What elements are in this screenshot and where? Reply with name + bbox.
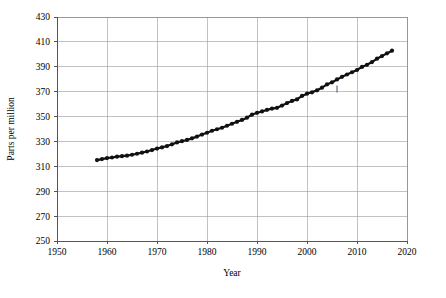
data-point xyxy=(325,82,329,86)
data-point xyxy=(385,51,389,55)
data-point xyxy=(215,127,219,131)
data-point xyxy=(185,138,189,142)
data-point xyxy=(125,154,129,158)
data-point xyxy=(195,134,199,138)
x-tick-label-1980: 1980 xyxy=(198,247,217,257)
data-point xyxy=(280,104,284,108)
data-point xyxy=(250,113,254,117)
data-point xyxy=(285,101,289,105)
data-point xyxy=(260,109,264,113)
data-point xyxy=(390,49,394,53)
x-tick-label-1950: 1950 xyxy=(48,247,67,257)
data-point xyxy=(290,99,294,103)
data-point xyxy=(275,106,279,110)
data-point xyxy=(135,152,139,156)
x-axis-title: Year xyxy=(223,268,241,278)
chart-background xyxy=(0,0,446,298)
data-point xyxy=(180,139,184,143)
chart-container: 250270290310330350370390410430 195019601… xyxy=(0,0,446,298)
data-point xyxy=(150,148,154,152)
data-point xyxy=(380,54,384,58)
data-point xyxy=(310,90,314,94)
y-tick-label-350: 350 xyxy=(36,112,51,122)
data-point xyxy=(255,111,259,115)
y-tick-label-250: 250 xyxy=(36,236,51,246)
x-tick-label-2000: 2000 xyxy=(298,247,317,257)
data-point xyxy=(300,94,304,98)
x-tick-label-2010: 2010 xyxy=(348,247,367,257)
data-point xyxy=(345,72,349,76)
data-point xyxy=(130,153,134,157)
data-point xyxy=(170,142,174,146)
data-point xyxy=(315,88,319,92)
co2-concentration-scatter-chart: 250270290310330350370390410430 195019601… xyxy=(0,0,446,298)
data-point xyxy=(375,57,379,61)
data-point xyxy=(230,122,234,126)
data-point xyxy=(100,157,104,161)
x-tick-label-1970: 1970 xyxy=(148,247,167,257)
y-tick-label-310: 310 xyxy=(36,162,51,172)
data-point xyxy=(360,65,364,69)
data-point xyxy=(190,136,194,140)
y-axis-title: Parts per million xyxy=(6,97,16,161)
data-point xyxy=(295,97,299,101)
data-point xyxy=(235,120,239,124)
y-tick-label-330: 330 xyxy=(36,137,51,147)
data-point xyxy=(175,140,179,144)
data-point xyxy=(265,108,269,112)
data-point xyxy=(165,144,169,148)
data-point xyxy=(155,146,159,150)
data-point xyxy=(110,155,114,159)
data-point xyxy=(140,151,144,155)
data-point xyxy=(200,133,204,137)
data-point xyxy=(115,155,119,159)
x-tick-label-2020: 2020 xyxy=(398,247,417,257)
data-point xyxy=(210,129,214,133)
y-tick-label-410: 410 xyxy=(36,37,51,47)
data-point xyxy=(355,68,359,72)
y-tick-label-430: 430 xyxy=(36,12,51,22)
x-tick-label-1990: 1990 xyxy=(248,247,267,257)
data-point xyxy=(330,80,334,84)
data-point xyxy=(365,63,369,67)
data-point xyxy=(305,92,309,96)
data-point xyxy=(120,154,124,158)
data-point xyxy=(370,60,374,64)
y-tick-label-370: 370 xyxy=(36,87,51,97)
y-tick-label-390: 390 xyxy=(36,62,51,72)
data-point xyxy=(160,145,164,149)
data-point xyxy=(245,116,249,120)
y-tick-label-290: 290 xyxy=(36,187,51,197)
data-point xyxy=(320,86,324,90)
data-point xyxy=(225,124,229,128)
data-point xyxy=(240,118,244,122)
data-point xyxy=(105,156,109,160)
data-point xyxy=(340,75,344,79)
data-point xyxy=(270,106,274,110)
data-point xyxy=(350,70,354,74)
y-tick-label-270: 270 xyxy=(36,212,51,222)
data-point xyxy=(205,131,209,135)
data-point xyxy=(95,158,99,162)
data-point xyxy=(335,77,339,81)
data-point xyxy=(220,126,224,130)
x-tick-label-1960: 1960 xyxy=(98,247,117,257)
data-point xyxy=(145,149,149,153)
